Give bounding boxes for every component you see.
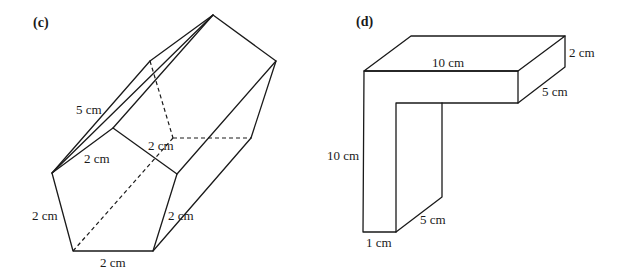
label-depth-bottom: 5 cm — [420, 212, 446, 227]
lateral-edge-top-left — [52, 15, 213, 173]
label-depth-top: 5 cm — [542, 84, 568, 99]
figure-c: (c) 5 cm 2 cm 2 cm 2 cm 2 cm 2 cm — [32, 15, 276, 270]
lateral-edge-bottom-right — [153, 138, 251, 251]
panel-label-c: (c) — [33, 15, 49, 31]
label-right-side: 2 cm — [168, 208, 194, 223]
label-top-left-side: 2 cm — [84, 151, 110, 166]
diagram-canvas: (c) 5 cm 2 cm 2 cm 2 cm 2 cm 2 cm (d) — [0, 0, 623, 276]
front-l-face — [363, 71, 518, 232]
label-bottom-side: 2 cm — [100, 255, 126, 270]
label-top-right-side: 2 cm — [148, 138, 174, 153]
label-slant-edge: 5 cm — [76, 102, 102, 117]
figure-d: (d) 10 cm 2 cm 5 cm 10 cm 5 cm 1 cm — [327, 14, 595, 250]
top-face — [364, 36, 565, 71]
lateral-edge-top — [113, 15, 213, 128]
label-height: 10 cm — [327, 148, 359, 163]
back-pentagon-visible-edges — [150, 15, 276, 138]
label-thickness: 2 cm — [569, 45, 595, 60]
label-width-bottom: 1 cm — [366, 235, 392, 250]
lateral-edge-right — [177, 61, 276, 174]
panel-label-d: (d) — [356, 14, 373, 30]
label-top-length: 10 cm — [432, 55, 464, 70]
label-left-side: 2 cm — [32, 208, 58, 223]
